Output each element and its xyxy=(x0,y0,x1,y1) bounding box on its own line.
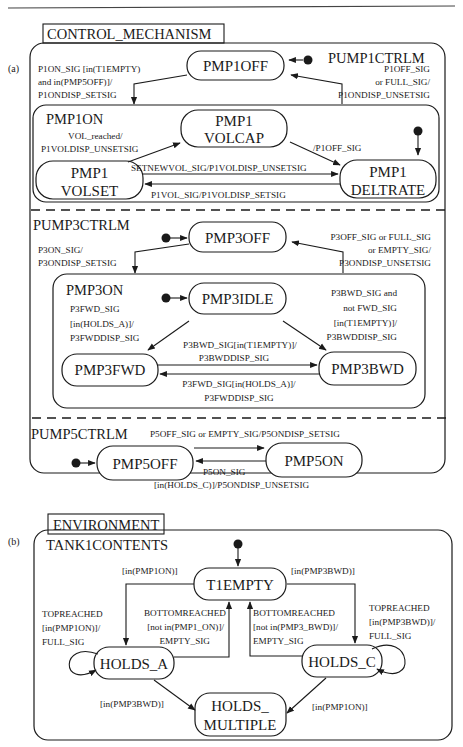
label-c-to-empty-line3: EMPTY_SIG xyxy=(253,636,304,646)
transition-pmp1on-to-pmp1off xyxy=(291,75,342,104)
state-holds-multiple-label-1: HOLDS_ xyxy=(211,698,269,714)
state-volset-label-1: PMP1 xyxy=(71,165,109,181)
tank1contents-label: TANK1CONTENTS xyxy=(46,537,168,553)
control-mechanism-title: CONTROL_MECHANISM xyxy=(47,26,211,42)
state-pmp3off-label: PMP3OFF xyxy=(205,230,270,246)
label-p3off-line1: P3OFF_SIG or FULL_SIG xyxy=(330,232,431,242)
label-c-to-empty-line1: BOTTOMREACHED xyxy=(253,608,335,618)
label-a-to-multiple: [in(PMP3BWD)] xyxy=(100,699,164,709)
state-t1empty-label: T1EMPTY xyxy=(206,577,274,593)
label-fwd-to-bwd-line1: P3BWD_SIG[in(T1EMPTY)]/ xyxy=(183,340,297,350)
state-holds-multiple-label-2: MULTIPLE xyxy=(204,717,277,733)
label-p5on: P5ON_SIG xyxy=(203,467,246,477)
label-a-self-line3: FULL_SIG xyxy=(42,637,85,647)
label-p3on-line2: P3ONDISP_SETSIG xyxy=(38,258,117,268)
pmp1on-initial-dot xyxy=(414,127,423,136)
state-deltrate-label-1: PMP1 xyxy=(369,164,407,180)
label-a-to-empty-line2: [not in(PMP1_ON)]/ xyxy=(147,622,224,632)
top-rule xyxy=(8,6,455,8)
label-p1on-line3: P1ONDISP_SETSIG xyxy=(38,90,117,100)
label-empty-to-c: [in(PMP3BWD)] xyxy=(291,566,355,576)
label-c-to-empty-line2: [not in(PMP3_BWD)]/ xyxy=(253,622,338,632)
label-p3bwd-line2: not FWD_SIG xyxy=(343,303,397,313)
label-c-self-line2: [in(PMP3BWD)]/ xyxy=(369,617,436,627)
label-p1on-line1: P1ON_SIG [in(T1EMPTY) xyxy=(38,64,140,74)
state-volcap-label-1: PMP1 xyxy=(215,113,253,129)
label-p1vol-sig: P1VOL_SIG/P1VOLDISP_SETSIG xyxy=(151,190,286,200)
label-p5ondisp-unset: [in(HOLDS_C)]/P5ONDISP_UNSETSIG xyxy=(154,480,310,490)
pump5-region-label: PUMP5CTRLM xyxy=(31,426,128,442)
label-p3off-line3: P3ONDISP_UNSETSIG xyxy=(339,258,431,268)
label-p3fwd-line3: P3FWDDISP_SIG xyxy=(70,333,140,343)
state-pmp1off-label: PMP1OFF xyxy=(203,58,268,74)
label-p3fwd-line2: [in(HOLDS_A)]/ xyxy=(70,319,134,329)
label-fwd-to-bwd-line2: P3BWDDISP_SIG xyxy=(199,353,270,363)
label-vol-reached-line2: P1VOLDISP_UNSETSIG xyxy=(41,144,139,154)
state-pmp3fwd-label: PMP3FWD xyxy=(75,362,146,378)
state-pmp3bwd-label: PMP3BWD xyxy=(331,361,404,377)
label-p3off-line2: or EMPTY_SIG/ xyxy=(368,245,431,255)
label-p3bwd-line4: P3BWDDISP_SIG xyxy=(327,332,398,342)
label-a-self-line1: TOPREACHED xyxy=(42,609,103,619)
label-p1off-line3: P1ONDISP_UNSETSIG xyxy=(338,90,430,100)
label-p3on-line1: P3ON_SIG/ xyxy=(38,245,83,255)
panel-a: (a) CONTROL_MECHANISM PUMP1CTRLM PMP1OFF… xyxy=(8,24,447,490)
panel-a-tag: (a) xyxy=(8,63,19,75)
label-p1on-line2: and in(PMP5OFF)]/ xyxy=(38,77,113,87)
state-volcap-label-2: VOLCAP xyxy=(204,130,264,146)
label-c-self-line1: TOPREACHED xyxy=(369,603,430,613)
label-c-to-multiple: [in(PMP1ON)] xyxy=(312,702,368,712)
transition-pmp3on-to-pmp3off xyxy=(292,242,343,273)
state-pmp3on-label: PMP3ON xyxy=(66,282,124,298)
state-pmp3idle-label: PMP3IDLE xyxy=(202,291,274,307)
label-p1off-line1: P1OFF_SIG xyxy=(384,64,430,74)
label-empty-to-a: [in(PMP1ON)] xyxy=(122,566,178,576)
state-pmp5on-label: PMP5ON xyxy=(284,453,343,469)
label-bwd-to-fwd-line1: P3FWD_SIG[in(HOLDS_A)]/ xyxy=(182,379,296,389)
statechart-figure: (a) CONTROL_MECHANISM PUMP1CTRLM PMP1OFF… xyxy=(0,0,463,747)
tank-initial-dot xyxy=(234,540,243,549)
panel-b-tag: (b) xyxy=(8,536,20,548)
label-p5off: P5OFF_SIG or EMPTY_SIG/P5ONDISP_SETSIG xyxy=(150,429,340,439)
pump3-region-label: PUMP3CTRLM xyxy=(33,217,130,233)
transition-pmp3off-to-pmp3on xyxy=(135,244,189,273)
panel-b: (b) ENVIRONMENT TANK1CONTENTS T1EMPTY HO… xyxy=(8,514,452,740)
state-holds-a-label: HOLDS_A xyxy=(100,656,169,672)
label-p3bwd-line3: [in(T1EMPTY)]/ xyxy=(334,318,398,328)
state-volset-label-2: VOLSET xyxy=(61,183,119,199)
label-a-to-empty-line3: EMPTY_SIG xyxy=(159,636,210,646)
label-p1off-sig: /P1OFF_SIG xyxy=(313,143,362,153)
label-p3fwd-line1: P3FWD_SIG xyxy=(70,304,120,314)
state-pmp1on-label: PMP1ON xyxy=(46,111,104,127)
label-bwd-to-fwd-line2: P3FWDDISP_SIG xyxy=(204,393,274,403)
label-p3bwd-line1: P3BWD_SIG and xyxy=(331,288,398,298)
state-pmp5off-label: PMP5OFF xyxy=(112,456,177,472)
pump1-initial-dot xyxy=(304,56,313,65)
label-c-self-line3: FULL_SIG xyxy=(369,631,412,641)
pump3-initial-dot xyxy=(162,234,171,243)
label-a-to-empty-line1: BOTTOMREACHED xyxy=(144,608,226,618)
label-p1off-line2: or FULL_SIG/ xyxy=(375,77,430,87)
label-a-self-line2: [in(PMP1ON)]/ xyxy=(42,623,101,633)
transition-pmp1off-to-pmp1on xyxy=(134,75,187,104)
state-holds-c-label: HOLDS_C xyxy=(308,654,376,670)
pmp3on-initial-dot xyxy=(162,294,171,303)
label-setnewvol: SETNEWVOL_SIG/P1VOLDISP_UNSETSIG xyxy=(131,163,307,173)
label-vol-reached-line1: VOL_reached/ xyxy=(68,131,123,141)
state-deltrate-label-2: DELTRATE xyxy=(351,182,425,198)
pump5-initial-dot xyxy=(72,459,81,468)
